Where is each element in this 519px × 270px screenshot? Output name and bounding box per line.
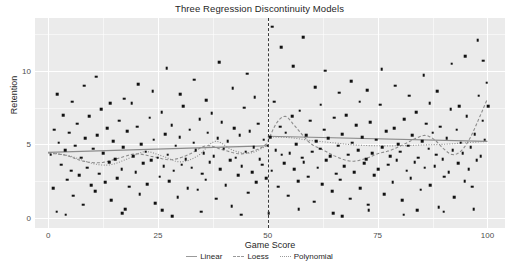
y-tick-label: 0 [27, 213, 31, 222]
legend-key-polynomial [280, 256, 291, 257]
x-tick-label: 0 [46, 231, 50, 240]
cutoff-line [268, 18, 269, 228]
chart-legend: LinearLoessPolynomial [0, 252, 519, 261]
y-tick-label: 10 [22, 66, 31, 75]
x-tick-label: 75 [373, 231, 382, 240]
chart-title: Three Regression Discontinuity Models [0, 3, 519, 14]
y-tick-label: 5 [27, 140, 31, 149]
legend-key-loess [233, 256, 244, 257]
legend-item-loess[interactable]: Loess [233, 252, 268, 261]
legend-label: Polynomial [294, 252, 333, 261]
legend-item-linear[interactable]: Linear [186, 252, 222, 261]
plot-panel [35, 18, 505, 228]
x-tick-label: 50 [263, 231, 272, 240]
x-tick-label: 100 [481, 231, 494, 240]
x-axis-label: Game Score [35, 240, 505, 250]
legend-key-linear [186, 256, 197, 257]
legend-label: Loess [247, 252, 268, 261]
legend-item-polynomial[interactable]: Polynomial [280, 252, 333, 261]
cutoff-layer [35, 18, 505, 228]
y-axis-label: Retention [9, 45, 19, 145]
chart-figure: Three Regression Discontinuity Models 05… [0, 0, 519, 270]
legend-label: Linear [200, 252, 222, 261]
x-tick-label: 25 [154, 231, 163, 240]
